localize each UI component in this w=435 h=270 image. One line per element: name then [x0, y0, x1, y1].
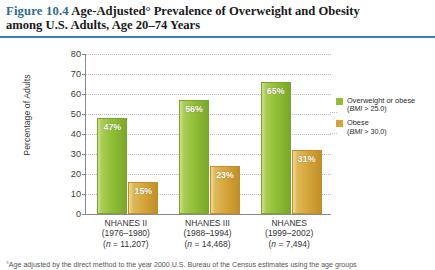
chart-area: Percentage of Adults 0102030405060708047…: [0, 38, 435, 253]
y-tick-label: 20: [71, 169, 81, 179]
legend-label-obese: Obese (BMI > 30.0): [347, 119, 387, 136]
figure-number: Figure 10.4: [6, 4, 69, 18]
figure-footnote: °Age adjusted by the direct method to th…: [6, 261, 432, 270]
x-group-years: (1999–2002): [265, 228, 313, 238]
y-tick-label: 50: [71, 109, 81, 119]
bar-value-label: 65%: [262, 86, 290, 96]
y-tick-label: 70: [71, 69, 81, 79]
x-axis-group-label: NHANES(1999–2002)(n = 7,494): [237, 218, 341, 250]
legend-sublabel-obese: (BMI > 30.0): [347, 127, 387, 136]
bar-value-label: 23%: [211, 170, 239, 180]
bar-value-label: 15%: [129, 186, 157, 196]
legend-swatch-obese-icon: [336, 120, 343, 127]
plot-area: 0102030405060708047%15%56%23%65%31%: [85, 54, 331, 215]
bar-obese: 23%: [210, 166, 240, 214]
bar-overweight: 47%: [97, 118, 127, 214]
x-group-years: (1976–1980): [102, 228, 150, 238]
y-axis-title: Percentage of Adults: [22, 55, 32, 175]
x-group-name: NHANES II: [105, 218, 148, 228]
bar-group: 65%31%: [249, 54, 331, 214]
legend-sublabel-overweight: (BMI > 25.0): [347, 104, 387, 113]
bar-obese: 15%: [128, 182, 158, 214]
figure-title-line-2: among U.S. Adults, Age 20–74 Years: [6, 18, 200, 32]
x-group-name: NHANES III: [185, 218, 230, 228]
x-group-n: (n = 14,468): [184, 239, 230, 249]
bar-overweight: 56%: [179, 100, 209, 214]
x-group-n: (n = 7,494): [268, 239, 309, 249]
chart-legend: Overweight or obese (BMI > 25.0) Obese (…: [336, 97, 434, 141]
figure-header: Figure 10.4 Age-Adjusted° Prevalence of …: [0, 0, 435, 33]
figure-title: Figure 10.4 Age-Adjusted° Prevalence of …: [6, 4, 427, 33]
bar-overweight: 65%: [261, 82, 291, 214]
figure-title-line-1: Age-Adjusted° Prevalence of Overweight a…: [71, 4, 359, 18]
bar-value-label: 47%: [98, 122, 126, 132]
bar-group: 56%23%: [168, 54, 250, 214]
legend-item-overweight: Overweight or obese (BMI > 25.0): [336, 97, 434, 114]
y-tick-label: 10: [71, 189, 81, 199]
x-group-n: (n = 11,207): [103, 239, 148, 249]
y-tick-label: 60: [71, 89, 81, 99]
y-tick-mark: [82, 214, 86, 215]
bar-value-label: 31%: [293, 154, 321, 164]
y-tick-label: 80: [71, 49, 81, 59]
bar-group: 47%15%: [86, 54, 168, 214]
y-tick-label: 30: [71, 149, 81, 159]
y-tick-label: 40: [71, 129, 81, 139]
legend-label-overweight: Overweight or obese (BMI > 25.0): [347, 97, 415, 114]
bar-value-label: 56%: [180, 104, 208, 114]
legend-item-obese: Obese (BMI > 30.0): [336, 119, 434, 136]
x-group-name: NHANES: [271, 218, 306, 228]
x-group-years: (1988–1994): [183, 228, 231, 238]
legend-swatch-overweight-icon: [336, 98, 343, 105]
bar-obese: 31%: [292, 150, 322, 214]
